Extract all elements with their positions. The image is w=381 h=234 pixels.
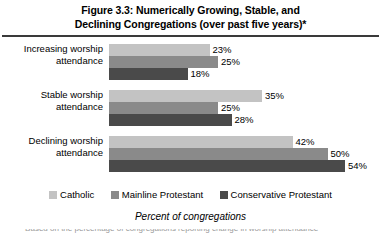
bar-row: 23% xyxy=(109,44,381,56)
legend-label: Catholic xyxy=(60,189,94,200)
bar-stack: 35% 25% 28% xyxy=(109,90,381,126)
bar-row: 50% xyxy=(109,148,381,160)
bar-group: Stable worship attendance 35% 25% 28% xyxy=(0,89,381,128)
bar-group: Declining worship attendance 42% 50% 54% xyxy=(0,135,381,174)
category-label-line-1: Stable worship xyxy=(41,89,103,100)
footnote-text: *Based on the percentage of congregation… xyxy=(22,229,365,234)
legend-label: Conservative Protestant xyxy=(231,189,332,200)
legend-swatch-icon xyxy=(111,191,119,199)
bar-value-label: 23% xyxy=(210,44,232,56)
bar-value-label: 25% xyxy=(218,102,240,114)
chart-plot-area: Increasing worship attendance 23% 25% 18… xyxy=(0,43,381,182)
bar-row: 42% xyxy=(109,136,381,148)
bar-row: 25% xyxy=(109,102,381,114)
category-label: Increasing worship attendance xyxy=(0,43,103,67)
bar-catholic xyxy=(109,90,262,102)
category-label-line-1: Increasing worship xyxy=(24,43,103,54)
bar-value-label: 54% xyxy=(345,160,367,172)
legend-item-conservative: Conservative Protestant xyxy=(220,189,332,201)
category-label-line-2: attendance xyxy=(0,101,103,113)
bar-stack: 23% 25% 18% xyxy=(109,44,381,80)
footnote-clipped: *Based on the percentage of congregation… xyxy=(22,229,365,234)
bar-value-label: 35% xyxy=(262,90,284,102)
bar-value-label: 18% xyxy=(188,68,210,80)
category-label: Stable worship attendance xyxy=(0,89,103,113)
category-label-line-1: Declining worship xyxy=(29,135,103,146)
bar-value-label: 42% xyxy=(293,136,315,148)
bar-row: 35% xyxy=(109,90,381,102)
x-axis-title: Percent of congregations xyxy=(0,211,381,222)
legend-item-mainline: Mainline Protestant xyxy=(111,189,203,201)
bar-value-label: 50% xyxy=(328,148,350,160)
legend-swatch-icon xyxy=(220,191,228,199)
figure-title: Figure 3.3: Numerically Growing, Stable,… xyxy=(0,0,381,31)
bar-catholic xyxy=(109,44,210,56)
legend-swatch-icon xyxy=(49,191,57,199)
bar-stack: 42% 50% 54% xyxy=(109,136,381,172)
bar-row: 18% xyxy=(109,68,381,80)
bar-mainline xyxy=(109,56,218,68)
bar-conservative xyxy=(109,160,345,172)
chart-legend: Catholic Mainline Protestant Conservativ… xyxy=(0,184,381,202)
category-label: Declining worship attendance xyxy=(0,135,103,159)
bar-conservative xyxy=(109,114,232,126)
bar-mainline xyxy=(109,148,328,160)
bar-mainline xyxy=(109,102,218,114)
bar-conservative xyxy=(109,68,188,80)
bar-value-label: 28% xyxy=(232,114,254,126)
bar-group: Increasing worship attendance 23% 25% 18… xyxy=(0,43,381,82)
bar-row: 25% xyxy=(109,56,381,68)
legend-item-catholic: Catholic xyxy=(49,189,94,201)
title-divider xyxy=(2,35,379,37)
bar-value-label: 25% xyxy=(218,56,240,68)
category-label-line-2: attendance xyxy=(0,147,103,159)
figure-title-line-1: Figure 3.3: Numerically Growing, Stable,… xyxy=(22,4,359,18)
legend-label: Mainline Protestant xyxy=(122,189,203,200)
figure-title-line-2: Declining Congregations (over past five … xyxy=(22,18,359,32)
bar-row: 28% xyxy=(109,114,381,126)
bar-catholic xyxy=(109,136,293,148)
category-label-line-2: attendance xyxy=(0,55,103,67)
figure-container: Figure 3.3: Numerically Growing, Stable,… xyxy=(0,0,381,234)
bar-row: 54% xyxy=(109,160,381,172)
